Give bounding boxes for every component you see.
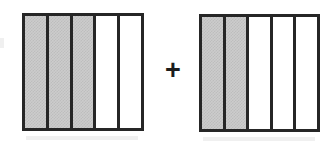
scan-artifact-left-edge [0,38,4,48]
left-bar-cell-5 [120,16,141,128]
fraction-addition-diagram: + [0,0,330,150]
left-bar-cell-3 [73,16,97,128]
right-fraction-bar [199,14,320,132]
right-bar-cell-5 [296,17,317,129]
left-bar-cell-2 [49,16,73,128]
right-bar-cell-1 [202,17,226,129]
plus-sign-icon: + [160,57,186,83]
left-bar-cell-1 [25,16,49,128]
right-bar-cell-4 [273,17,297,129]
left-bar-cell-4 [96,16,120,128]
right-bar-cell-2 [226,17,250,129]
left-fraction-bar [22,13,144,131]
scan-artifact-shadow-right [203,137,315,141]
right-bar-cell-3 [249,17,273,129]
scan-artifact-shadow-left [26,136,138,140]
